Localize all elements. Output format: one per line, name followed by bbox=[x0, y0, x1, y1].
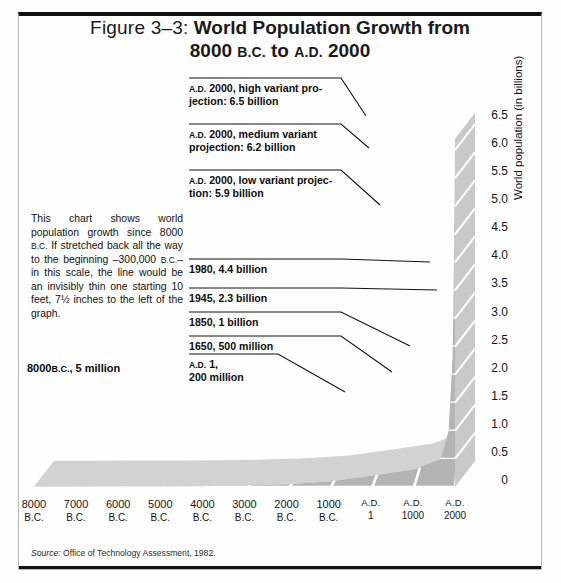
x-tick-10: A.D.2000 bbox=[429, 497, 481, 522]
leader-line bbox=[189, 288, 437, 290]
y-tick-2.5: 2.5 bbox=[462, 333, 508, 347]
y-axis-title: World population (in billions) bbox=[512, 20, 524, 200]
y-tick-5.5: 5.5 bbox=[462, 164, 508, 178]
x-tick-top: 2000 bbox=[274, 498, 298, 510]
x-tick-top: 6000 bbox=[106, 498, 130, 510]
x-tick-top: 7000 bbox=[64, 498, 88, 510]
source-note: Source: Office of Technology Assessment,… bbox=[31, 548, 216, 558]
y-tick-3.5: 3.5 bbox=[462, 276, 508, 290]
value-band bbox=[30, 108, 459, 122]
chart-description-text: This chart shows world population growth… bbox=[31, 212, 183, 320]
x-tick-top: 4000 bbox=[190, 498, 214, 510]
figure-page: Figure 3–3: World Population Growth from… bbox=[0, 0, 561, 583]
x-tick-bottom: 2000 bbox=[429, 509, 481, 522]
annotation-high-variant: A.D. 2000, high variant pro- jection: 6.… bbox=[189, 82, 341, 107]
annotation-low-variant: A.D. 2000, low variant projec- tion: 5.9… bbox=[189, 174, 341, 199]
annotation-1945: 1945, 2.3 billion bbox=[189, 292, 341, 305]
annotation-medium-variant: A.D. 2000, medium variant projection: 6.… bbox=[189, 128, 341, 153]
y-tick-6.5: 6.5 bbox=[462, 108, 508, 122]
annotation-1650: 1650, 500 million bbox=[189, 340, 341, 353]
value-band bbox=[30, 403, 459, 431]
y-tick-2.0: 2.0 bbox=[462, 361, 508, 375]
y-tick-5.0: 5.0 bbox=[462, 192, 508, 206]
y-tick-4.5: 4.5 bbox=[462, 220, 508, 234]
y-tick-4.0: 4.0 bbox=[462, 248, 508, 262]
annotation-1850: 1850, 1 billion bbox=[189, 316, 341, 329]
y-tick-0.5: 0.5 bbox=[462, 445, 508, 459]
y-tick-3.0: 3.0 bbox=[462, 305, 508, 319]
x-tick-top: 8000 bbox=[22, 498, 46, 510]
annotation-ad-1: A.D. 1, 200 million bbox=[189, 358, 341, 383]
x-tick-top: A.D. bbox=[429, 497, 481, 509]
annotation-8000-bc: 8000B.C., 5 million bbox=[27, 362, 120, 374]
bottom-rule bbox=[19, 566, 541, 569]
y-tick-1.0: 1.0 bbox=[462, 417, 508, 431]
y-tick-0: 0 bbox=[462, 473, 508, 487]
x-tick-top: 1000 bbox=[316, 498, 340, 510]
x-tick-top: 5000 bbox=[148, 498, 172, 510]
y-tick-1.5: 1.5 bbox=[462, 389, 508, 403]
y-tick-6.0: 6.0 bbox=[462, 136, 508, 150]
leader-line bbox=[189, 259, 430, 262]
annotation-1980: 1980, 4.4 billion bbox=[189, 263, 341, 276]
x-tick-top: 3000 bbox=[232, 498, 256, 510]
